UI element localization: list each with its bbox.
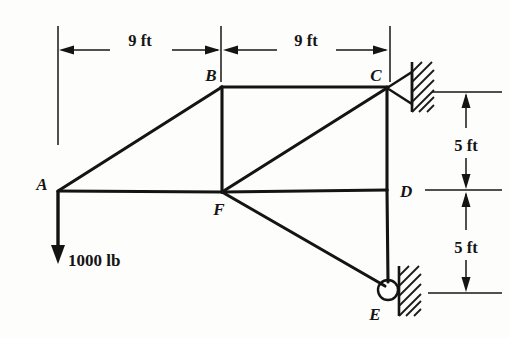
- roller-support-E: [378, 266, 421, 316]
- pin-wall-hatching-icon: [412, 62, 434, 112]
- roller-wall-hatching-icon: [399, 266, 421, 316]
- node-labels-group: A B C D E F: [35, 66, 412, 324]
- truss-figure: 9 ft 9 ft 5 ft 5 ft: [0, 0, 509, 338]
- node-label-B: B: [204, 66, 216, 85]
- dimension-5ft-upper: 5 ft: [454, 93, 478, 189]
- node-label-D: D: [399, 182, 412, 201]
- arrow-head-right-start: [223, 46, 238, 55]
- node-label-F: F: [212, 200, 225, 219]
- arrow-head-5ft-lower-bottom: [462, 277, 471, 292]
- member-DE: [387, 190, 388, 282]
- arrow-head-5ft-lower-top: [462, 192, 471, 207]
- member-FD: [222, 190, 387, 192]
- truss-diagram-canvas: 9 ft 9 ft 5 ft 5 ft: [0, 0, 509, 338]
- arrow-head-right-end: [373, 46, 388, 55]
- member-FE: [222, 192, 385, 286]
- load-arrow-head: [51, 245, 65, 264]
- dim-label-9ft-left: 9 ft: [128, 31, 152, 50]
- arrow-head-5ft-upper-top: [462, 93, 471, 108]
- member-AF: [58, 191, 222, 192]
- node-label-C: C: [370, 66, 382, 85]
- load-label: 1000 lb: [68, 251, 120, 270]
- applied-load-1000lb: 1000 lb: [51, 191, 120, 270]
- dimension-9ft-left: 9 ft: [59, 31, 220, 55]
- dimension-9ft-right: 9 ft: [223, 31, 388, 55]
- node-label-A: A: [35, 175, 47, 194]
- arrow-head-left-start: [59, 46, 74, 55]
- dimension-ticks-group: [425, 92, 502, 293]
- node-label-E: E: [368, 305, 380, 324]
- dim-label-5ft-lower: 5 ft: [454, 238, 478, 257]
- dimension-5ft-lower: 5 ft: [454, 192, 478, 292]
- arrow-head-5ft-upper-bottom: [462, 174, 471, 189]
- member-FC: [222, 88, 387, 192]
- pin-support-C: [387, 62, 434, 112]
- dim-label-5ft-upper: 5 ft: [454, 136, 478, 155]
- member-AB: [58, 87, 222, 191]
- arrow-head-left-end: [205, 46, 220, 55]
- dim-label-9ft-right: 9 ft: [294, 31, 318, 50]
